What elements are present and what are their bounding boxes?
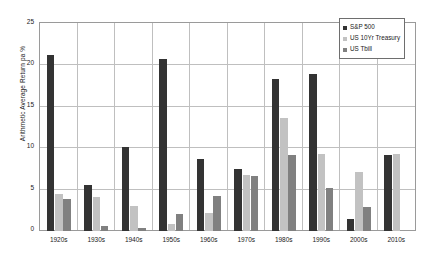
bar bbox=[234, 169, 242, 231]
bar bbox=[393, 154, 401, 231]
legend-item: S&P 500 bbox=[343, 22, 400, 33]
x-axis-tick-label: 1950s bbox=[153, 236, 191, 243]
x-axis-tick-label: 1960s bbox=[190, 236, 228, 243]
bar bbox=[363, 207, 371, 231]
bar-group bbox=[303, 23, 341, 231]
y-axis-tick-label: 10 bbox=[6, 142, 34, 149]
bar bbox=[213, 196, 221, 231]
bar bbox=[355, 172, 363, 231]
bar-group bbox=[153, 23, 191, 231]
y-axis-tick-label: 5 bbox=[6, 184, 34, 191]
y-axis-tick-label: 15 bbox=[6, 101, 34, 108]
bar bbox=[318, 154, 326, 231]
legend-label: US 10Yr Treasury bbox=[350, 35, 400, 41]
y-axis-tick-label: 20 bbox=[6, 59, 34, 66]
bar bbox=[176, 214, 184, 231]
bar bbox=[63, 199, 71, 231]
bar bbox=[93, 197, 101, 231]
bar bbox=[384, 155, 392, 231]
bar bbox=[197, 159, 205, 231]
bar bbox=[347, 219, 355, 231]
legend-item: US Tbill bbox=[343, 44, 400, 55]
x-axis-tick-labels: 1920s1930s1940s1950s1960s1970s1980s1990s… bbox=[40, 236, 415, 252]
x-axis-tick-label: 1930s bbox=[78, 236, 116, 243]
legend-swatch-icon bbox=[343, 37, 347, 41]
legend-label: S&P 500 bbox=[350, 24, 375, 30]
bar bbox=[205, 213, 213, 231]
x-axis-tick-label: 1990s bbox=[303, 236, 341, 243]
bar-group bbox=[115, 23, 153, 231]
legend-label: US Tbill bbox=[350, 46, 372, 52]
bar bbox=[280, 118, 288, 231]
bar-group bbox=[40, 23, 78, 231]
bar bbox=[168, 224, 176, 231]
x-axis-tick-label: 1940s bbox=[115, 236, 153, 243]
bar bbox=[130, 206, 138, 231]
bar bbox=[159, 59, 167, 231]
x-axis-tick-label: 1980s bbox=[265, 236, 303, 243]
bar bbox=[288, 155, 296, 231]
legend-item: US 10Yr Treasury bbox=[343, 33, 400, 44]
x-axis-tick-label: 2010s bbox=[378, 236, 416, 243]
bar bbox=[84, 185, 92, 231]
chart-legend: S&P 500US 10Yr TreasuryUS Tbill bbox=[339, 18, 405, 59]
bar-group bbox=[265, 23, 303, 231]
x-axis-tick-label: 2000s bbox=[340, 236, 378, 243]
legend-swatch-icon bbox=[343, 48, 347, 52]
bar bbox=[251, 176, 259, 231]
y-axis-tick-label: 25 bbox=[6, 18, 34, 25]
bar-group bbox=[78, 23, 116, 231]
x-axis-tick-label: 1920s bbox=[40, 236, 78, 243]
bar bbox=[243, 175, 251, 231]
y-axis-tick-label: 0 bbox=[6, 225, 34, 232]
bar bbox=[309, 74, 317, 231]
bar bbox=[326, 188, 334, 231]
legend-swatch-icon bbox=[343, 26, 347, 30]
bar bbox=[101, 226, 109, 231]
bar bbox=[122, 147, 130, 231]
bar bbox=[138, 228, 146, 231]
bar-group bbox=[190, 23, 228, 231]
x-axis-tick-label: 1970s bbox=[228, 236, 266, 243]
bar-group bbox=[228, 23, 266, 231]
bar bbox=[55, 194, 63, 231]
bar bbox=[47, 55, 55, 231]
bar-chart: Arithmetic Average Return pa % 051015202… bbox=[0, 0, 434, 263]
bar bbox=[272, 79, 280, 231]
